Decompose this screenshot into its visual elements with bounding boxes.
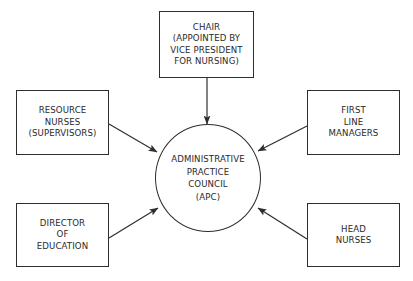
node-apc-label: ADMINISTRATIVE PRACTICE COUNCIL (APC) — [171, 153, 244, 203]
node-administrative-practice-council: ADMINISTRATIVE PRACTICE COUNCIL (APC) — [155, 124, 261, 232]
node-chair-label: CHAIR (APPOINTED BY VICE PRESIDENT FOR N… — [170, 22, 242, 68]
node-director-of-education: DIRECTOR OF EDUCATION — [16, 203, 109, 267]
node-first-line-managers: FIRST LINE MANAGERS — [307, 90, 400, 155]
node-resource-nurses: RESOURCE NURSES (SUPERVISORS) — [16, 90, 109, 155]
node-resource-nurses-label: RESOURCE NURSES (SUPERVISORS) — [29, 105, 97, 140]
node-chair: CHAIR (APPOINTED BY VICE PRESIDENT FOR N… — [159, 11, 254, 78]
arrow-director-of-education-to-apc — [109, 208, 158, 238]
arrow-resource-nurses-to-apc — [109, 124, 157, 152]
arrow-head-nurses-to-apc — [258, 208, 307, 239]
arrow-first-line-managers-to-apc — [258, 126, 307, 151]
node-head-nurses-label: HEAD NURSES — [336, 224, 372, 247]
node-director-of-education-label: DIRECTOR OF EDUCATION — [37, 218, 88, 253]
node-head-nurses: HEAD NURSES — [307, 203, 400, 267]
node-first-line-managers-label: FIRST LINE MANAGERS — [329, 105, 379, 140]
apc-diagram: CHAIR (APPOINTED BY VICE PRESIDENT FOR N… — [0, 0, 413, 281]
